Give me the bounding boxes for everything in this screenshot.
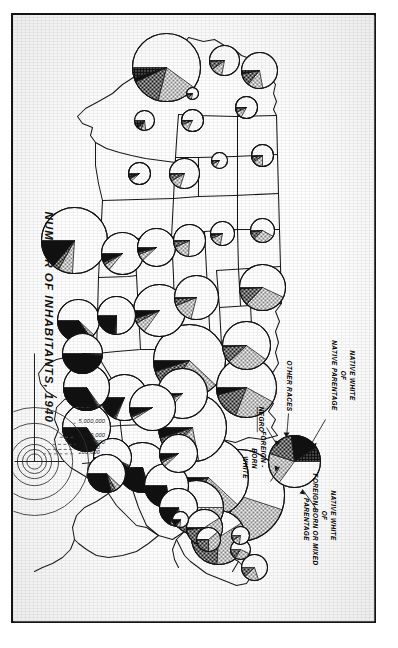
svg-text:FOREIGN -: FOREIGN - (259, 431, 266, 468)
state-pie (159, 434, 197, 472)
state-pie (87, 454, 125, 492)
svg-text:NATIVE WHITE: NATIVE WHITE (329, 490, 336, 540)
state-pie (97, 296, 135, 334)
svg-text:FOREIGN-BORN OR MIXED: FOREIGN-BORN OR MIXED (311, 473, 318, 565)
legend-label-other-races: OTHER RACES (285, 360, 292, 411)
scale-tick-label: 2,000,000 (77, 432, 105, 438)
svg-text:BORN: BORN (250, 448, 257, 468)
scale-tick-label: 5,000,000 (78, 418, 105, 424)
state-pie (129, 384, 175, 430)
svg-text:OF: OF (339, 370, 346, 380)
svg-text:NATIVE PARENTAGE: NATIVE PARENTAGE (330, 340, 337, 411)
svg-text:NATIVE WHITE: NATIVE WHITE (348, 350, 355, 400)
state-pie (174, 275, 218, 319)
state-pie (101, 232, 143, 274)
screenshot-root: NATIVE WHITE OF NATIVE PARENTAGE OTHER R… (0, 0, 398, 648)
scale-tick-label: 200,000 (77, 448, 100, 454)
svg-text:NEGRO: NEGRO (257, 406, 264, 431)
svg-text:OTHER RACES: OTHER RACES (285, 360, 292, 411)
state-pie (62, 333, 102, 373)
state-pie (137, 228, 175, 266)
state-pie (239, 264, 285, 310)
state-pie (222, 321, 270, 369)
scale-tick-label: 10,000,000 (78, 402, 109, 408)
census-map-figure: NATIVE WHITE OF NATIVE PARENTAGE OTHER R… (13, 15, 374, 621)
plate-frame: NATIVE WHITE OF NATIVE PARENTAGE OTHER R… (11, 13, 376, 623)
svg-text:PARENTAGE: PARENTAGE (302, 498, 309, 541)
svg-text:WHITE: WHITE (241, 456, 248, 479)
rotated-plate: NATIVE WHITE OF NATIVE PARENTAGE OTHER R… (13, 15, 374, 621)
svg-text:OF: OF (320, 510, 327, 520)
figure-title: NUMBER OF INHABITANTS, 1940 (42, 211, 54, 423)
legend-label-negro: NEGRO (257, 406, 264, 431)
